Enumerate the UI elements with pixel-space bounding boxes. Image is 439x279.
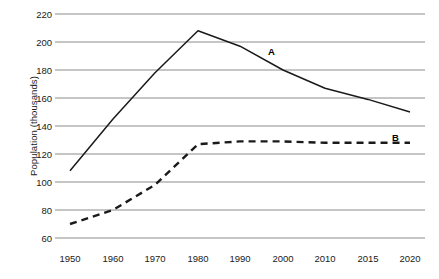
x-tick-label: 2020 — [399, 254, 420, 264]
x-tick-label: 1950 — [59, 254, 80, 264]
x-tick-label: 1970 — [144, 254, 165, 264]
x-tick-label: 1990 — [229, 254, 250, 264]
x-tick-label: 2010 — [314, 254, 335, 264]
x-tick-label: 1960 — [102, 254, 123, 264]
line-chart: Population (thousands) 220 200 180 160 1… — [0, 0, 439, 279]
x-tick-label: 2015 — [357, 254, 378, 264]
x-tick-label: 2000 — [272, 254, 293, 264]
x-axis-tick-labels: 1950 1960 1970 1980 1990 2000 2010 2015 … — [0, 0, 439, 279]
x-tick-label: 1980 — [187, 254, 208, 264]
